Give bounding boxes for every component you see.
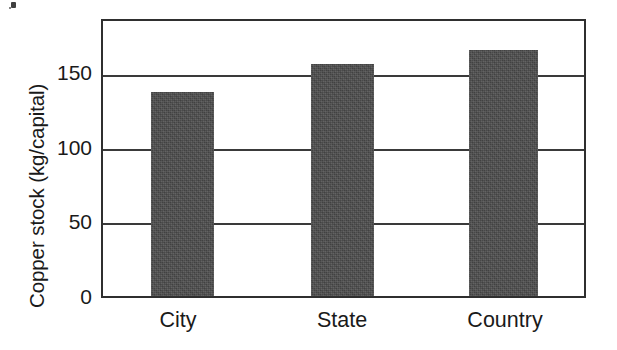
bar-country [469,50,538,296]
bar-state [311,64,374,296]
y-tick-label-0: 0 [9,286,101,307]
bar-city [151,92,214,296]
y-tick-label-150: 150 [9,62,101,83]
bar-chart-figure: Copper stock (kg/capital) 150 100 50 0 C… [0,0,617,350]
y-tick-label-100: 100 [9,137,101,158]
x-tick-label-city: City [159,308,196,332]
x-tick-label-state: State [317,308,367,332]
plot-area [101,19,586,298]
y-tick-label-50: 50 [9,211,101,232]
y-axis-tick-labels: 150 100 50 0 [0,0,101,350]
x-tick-label-country: Country [467,308,542,332]
